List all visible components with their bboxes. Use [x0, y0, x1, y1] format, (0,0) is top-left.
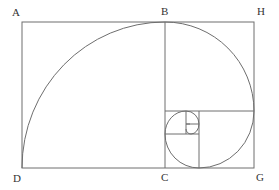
golden-spiral-diagram: A B H D C G — [0, 0, 279, 190]
label-h: H — [257, 5, 265, 17]
outer-golden-rectangle — [22, 22, 254, 168]
label-d: D — [13, 172, 21, 184]
golden-spiral — [22, 22, 254, 168]
label-a: A — [12, 6, 20, 18]
label-b: B — [161, 5, 168, 17]
label-g: G — [256, 171, 264, 183]
label-c: C — [161, 171, 168, 183]
